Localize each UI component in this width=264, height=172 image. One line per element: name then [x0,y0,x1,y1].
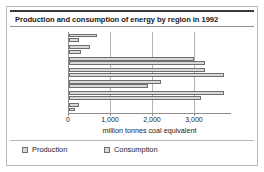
bar-consumption-north-america [69,61,205,65]
chart-row: South America [68,44,228,56]
chart-title-box: Production and consumption of energy by … [10,10,254,27]
bar-production-south-america [69,45,90,49]
x-tick-label-0: 0 [48,116,88,123]
bar-production-north-america [69,57,194,61]
bar-production-former-ussr [69,80,161,84]
bar-production-europe [69,68,205,72]
chart-row: Asia [68,90,228,102]
x-tick-label-1000: 1,000 [90,116,130,123]
x-axis-line [68,113,231,114]
chart-row: Europe [68,67,228,79]
legend-entry-consumption[interactable]: Consumption [104,145,158,154]
chart-row: Former USSR(figures are for 1991) [68,78,228,90]
chart-row: Africa [68,32,228,44]
page-title: Production and consumption of energy by … [15,15,218,24]
legend-entry-production[interactable]: Production [22,145,67,154]
bar-consumption-europe [69,73,224,77]
chart-row: Oceania [68,101,228,113]
chart-row: North America [68,55,228,67]
bar-consumption-former-ussr [69,84,148,88]
bar-production-oceania [69,103,79,107]
legend-swatch-icon [22,147,28,153]
legend-label: Consumption [114,145,158,154]
bar-consumption-south-america [69,50,81,54]
bar-consumption-africa [69,38,79,42]
chart-legend: ProductionConsumption [10,140,254,159]
bar-consumption-asia [69,96,201,100]
x-tick-label-3000: 3,000 [174,116,214,123]
plot-area: AfricaSouth AmericaNorth AmericaEuropeFo… [68,32,228,113]
chart-figure: Production and consumption of energy by … [0,0,264,172]
legend-label: Production [32,145,67,154]
bar-consumption-oceania [69,108,75,112]
legend-swatch-icon [104,147,110,153]
x-tick-label-2000: 2,000 [132,116,172,123]
x-axis-title: million tonnes coal equivalent [68,126,231,135]
bar-production-africa [69,34,97,38]
bar-production-asia [69,91,224,95]
